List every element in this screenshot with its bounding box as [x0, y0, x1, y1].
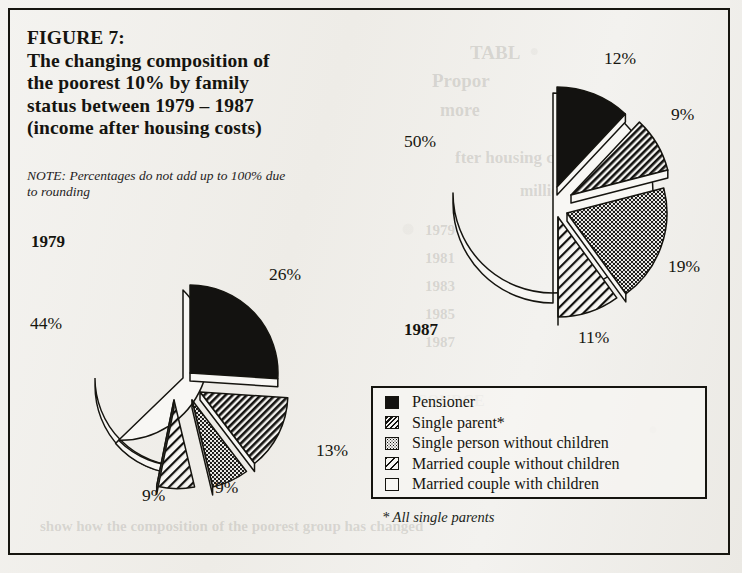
legend-swatch-stipple-icon	[385, 437, 399, 450]
pie-1979-year-label: 1979	[31, 232, 65, 252]
legend-footnote: * All single parents	[382, 509, 494, 526]
pie-1979-label-married-without-children: 9%	[142, 485, 165, 506]
figure-title-block: FIGURE 7: The changing composition of th…	[27, 27, 357, 140]
pie-1979-slice-pensioner	[190, 285, 278, 379]
legend-swatch-dense-hatch-icon	[385, 416, 399, 429]
pie-1979-svg	[55, 250, 325, 520]
legend-label: Single person without children	[412, 434, 609, 452]
legend-item-single-parent: Single parent*	[385, 413, 705, 434]
pie-1979-label-single-parent: 13%	[316, 440, 348, 461]
legend-swatch-sparse-hatch-icon	[385, 457, 399, 470]
pie-1987-slice-married-with-children-lip	[453, 193, 553, 303]
pie-chart-1979	[55, 250, 325, 520]
legend-label: Married couple with children	[412, 475, 599, 493]
pie-1987-label-married-with-children: 50%	[404, 131, 436, 152]
legend-swatch-empty-icon	[385, 478, 399, 491]
legend-item-pensioner: Pensioner	[385, 392, 705, 413]
pie-1979-label-pensioner: 26%	[269, 264, 301, 285]
legend-label: Pensioner	[412, 393, 475, 411]
page-title-line: the poorest 10% by family	[27, 72, 357, 95]
legend-item-married-with-children: Married couple with children	[385, 474, 705, 495]
legend: Pensioner Single parent* Single person w…	[371, 386, 707, 499]
legend-label: Single parent*	[412, 414, 505, 432]
pie-1979-label-married-with-children: 44%	[30, 313, 62, 334]
page-title-line: (income after housing costs)	[27, 117, 357, 140]
pie-1979-label-single-person: 9%	[215, 477, 238, 498]
legend-item-married-without-children: Married couple without children	[385, 454, 705, 475]
page-title-line: status between 1979 – 1987	[27, 95, 357, 118]
pie-1987-label-single-person: 19%	[668, 256, 700, 277]
pie-chart-1987	[425, 45, 700, 345]
pie-1987-svg	[425, 45, 700, 345]
page-title-line: The changing composition of	[27, 50, 357, 73]
pie-1987-label-single-parent: 9%	[671, 104, 694, 125]
figure-note: NOTE: Percentages do not add up to 100% …	[27, 168, 287, 200]
pie-1987-label-pensioner: 12%	[604, 48, 636, 69]
pie-1987-label-married-without-children: 11%	[578, 327, 609, 348]
legend-swatch-solid-black-icon	[385, 396, 399, 409]
legend-label: Married couple without children	[412, 455, 620, 473]
legend-item-single-person: Single person without children	[385, 433, 705, 454]
page-title-line: FIGURE 7:	[27, 27, 357, 50]
